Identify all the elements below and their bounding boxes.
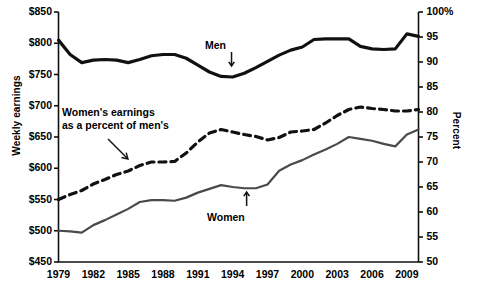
axis-lines bbox=[59, 12, 419, 262]
y-axis-right-tick-65: 65 bbox=[427, 180, 467, 192]
annotation-percent-line2: as a percent of men's bbox=[62, 119, 169, 132]
y-axis-left-tick-800: $800 bbox=[8, 36, 52, 48]
men-annotation-arrow bbox=[229, 52, 235, 66]
chart-plot-area bbox=[0, 0, 477, 287]
y-axis-left-tick-450: $450 bbox=[8, 255, 52, 267]
y-axis-left-tick-650: $650 bbox=[8, 130, 52, 142]
y-axis-left-tick-600: $600 bbox=[8, 161, 52, 173]
annotation-percent-label: Women's earnings as a percent of men's bbox=[62, 106, 169, 131]
y-axis-right-tick-50: 50 bbox=[427, 255, 467, 267]
women-annotation-arrow bbox=[244, 192, 250, 206]
x-axis-tick-2009: 2009 bbox=[387, 268, 427, 280]
chart-container: Weekly earnings Percent Men Women Women'… bbox=[0, 0, 477, 287]
series-line-men bbox=[59, 34, 419, 77]
y-axis-right-tick-80: 80 bbox=[427, 105, 467, 117]
annotation-percent-line1: Women's earnings bbox=[62, 106, 169, 119]
y-axis-right-tick-75: 75 bbox=[427, 130, 467, 142]
series-lines bbox=[59, 34, 419, 233]
y-axis-right-tick-70: 70 bbox=[427, 155, 467, 167]
y-axis-left-tick-750: $750 bbox=[8, 68, 52, 80]
y-axis-right-tick-100: 100% bbox=[427, 5, 467, 17]
y-axis-right-tick-85: 85 bbox=[427, 80, 467, 92]
percent-annotation-arrow bbox=[108, 139, 128, 159]
y-axis-right-tick-95: 95 bbox=[427, 30, 467, 42]
y-axis-right-tick-90: 90 bbox=[427, 55, 467, 67]
y-axis-left-title: Weekly earnings bbox=[11, 74, 22, 158]
annotation-men-label: Men bbox=[205, 39, 226, 52]
y-axis-right-tick-60: 60 bbox=[427, 205, 467, 217]
y-axis-left-tick-850: $850 bbox=[8, 5, 52, 17]
y-axis-left-tick-700: $700 bbox=[8, 99, 52, 111]
annotation-women-label: Women bbox=[207, 211, 245, 224]
y-axis-left-tick-550: $550 bbox=[8, 193, 52, 205]
y-axis-left-tick-500: $500 bbox=[8, 224, 52, 236]
y-axis-right-tick-55: 55 bbox=[427, 230, 467, 242]
